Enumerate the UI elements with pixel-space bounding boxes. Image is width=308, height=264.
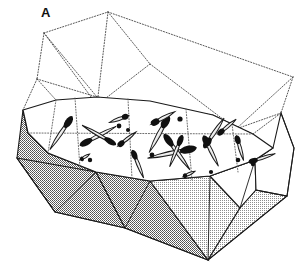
inclusion-dot: [117, 124, 122, 129]
figure-container: A: [0, 0, 308, 264]
upper-edge-left-seam: [37, 79, 56, 100]
upper-edge-inner-rim: [44, 33, 97, 97]
inclusion-dot: [251, 162, 255, 166]
upper-edge-left-low: [23, 79, 37, 110]
inclusion-dot: [177, 116, 182, 121]
inclusion-dot: [126, 128, 130, 132]
inclusion-dot: [88, 158, 92, 162]
panel-label-a: A: [41, 6, 51, 19]
inclusion-dot: [150, 153, 155, 158]
upper-edge-top-right: [108, 12, 293, 77]
upper-edge-right-low: [236, 113, 281, 129]
block-diagram-illustration: [0, 0, 308, 264]
upper-edge-top-left: [44, 12, 108, 33]
upper-edge-apex-mid: [97, 12, 108, 105]
inclusion-dot: [209, 170, 213, 174]
upper-edge-left: [37, 33, 44, 79]
inclusion-dot: [236, 158, 241, 163]
